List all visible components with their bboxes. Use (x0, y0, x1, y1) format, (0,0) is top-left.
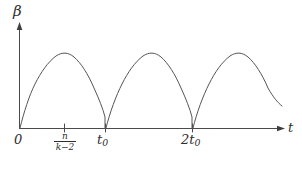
tick-label-t0-subscript: 0 (102, 137, 108, 148)
beta-vs-time-figure: β t 0 n k−2 t0 2t0 (0, 0, 302, 169)
tick-label-origin: 0 (14, 133, 22, 146)
tick-label-t0: t0 (97, 133, 108, 148)
beta-curve-arch-3 (193, 53, 282, 128)
tick-label-fraction: n k−2 (48, 132, 82, 153)
beta-curve-arch-2 (106, 53, 192, 128)
x-axis-label: t (288, 121, 293, 134)
beta-curve-arch-1 (20, 53, 105, 128)
x-axis-arrowhead (277, 126, 285, 132)
tick-label-2t0-subscript: 0 (195, 137, 201, 148)
y-axis-label: β (13, 4, 22, 19)
plot-canvas (0, 0, 302, 169)
fraction-denominator: k−2 (54, 141, 77, 152)
tick-label-2t0-base: 2t (181, 132, 195, 147)
tick-label-2t0: 2t0 (181, 133, 200, 148)
y-axis-arrowhead (17, 22, 23, 30)
fraction-numerator: n (54, 132, 77, 141)
fraction-n-over-k-minus-2: n k−2 (54, 132, 77, 153)
